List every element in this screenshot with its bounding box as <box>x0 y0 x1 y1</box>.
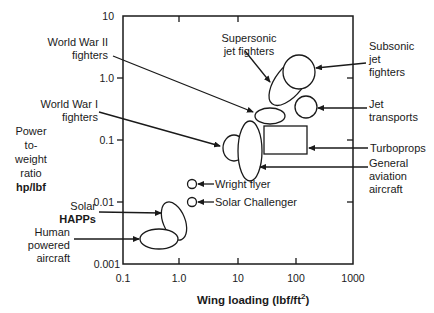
point-solar-challenger <box>188 198 197 207</box>
region-subsonic-jet-fighters <box>283 55 315 89</box>
label-ww2-fighters: World War IIfighters <box>30 36 108 62</box>
label-wright-flyer: Wright flyer <box>215 178 270 191</box>
x-tick-label: 1.0 <box>164 272 194 284</box>
arrow-solar-happs <box>99 212 161 213</box>
region-turboprops <box>264 126 307 154</box>
arrow-ww1 <box>99 112 220 146</box>
y-axis-label: Power to- weight ratio hp/lbf <box>2 124 60 194</box>
y-tick-label: 0.001 <box>80 258 120 270</box>
point-wright-flyer <box>188 180 197 189</box>
label-general-aviation: Generalaviationaircraft <box>369 157 408 196</box>
x-tick-label: 0.1 <box>108 272 138 284</box>
label-supersonic-jet-fighters: Supersonicjet fighters <box>212 32 286 58</box>
label-jet-transports: Jettransports <box>369 98 418 124</box>
region-ww2-fighters <box>255 108 285 124</box>
y-tick-label: 10 <box>90 10 114 22</box>
label-human-powered: Humanpoweredaircraft <box>14 226 70 265</box>
arrow-subsonic <box>316 63 366 68</box>
x-tick-label: 1000 <box>335 272 371 284</box>
x-axis-label: Wing loading (lbf/ft2) <box>197 290 309 307</box>
label-turboprops: Turboprops <box>370 142 426 155</box>
x-tick-label: 10 <box>223 272 253 284</box>
region-jet-transports <box>295 96 317 118</box>
label-solar-happs: SolarHAPPs <box>40 200 96 226</box>
label-ww1-fighters: World War Ifighters <box>20 98 98 124</box>
arrow-ww2 <box>113 56 253 112</box>
y-tick-label: 1.0 <box>86 72 114 84</box>
region-human-powered <box>140 229 178 249</box>
label-subsonic-jet-fighters: Subsonicjetfighters <box>369 40 414 79</box>
region-general-aviation <box>238 121 262 181</box>
x-tick-label: 100 <box>281 272 311 284</box>
y-tick-label: 0.1 <box>86 134 114 146</box>
label-solar-challenger: Solar Challenger <box>215 196 297 209</box>
